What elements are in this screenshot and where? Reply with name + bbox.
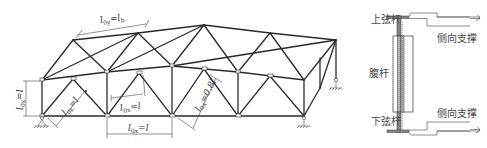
dim-bottom-chord: l0x=l bbox=[107, 118, 172, 138]
dim-end-post: l0x=l bbox=[15, 81, 40, 116]
svg-text:l0x=0.8l: l0x=0.8l bbox=[193, 77, 219, 113]
dim-web-member: l0x=l bbox=[111, 75, 145, 114]
label-web-member: 腹杆 bbox=[369, 67, 389, 79]
support-right-front bbox=[297, 116, 310, 128]
svg-text:l0x=l: l0x=l bbox=[60, 95, 82, 118]
bottom-chord-flange bbox=[387, 130, 409, 133]
section-detail-diagram: 上弦杆 腹杆 下弦杆 侧向支撑 侧向支撑 bbox=[369, 13, 480, 135]
label-lateral-bracing-bottom: 侧向支撑 bbox=[437, 107, 477, 119]
dim-inner-diagonal: l0x=0.8l bbox=[178, 75, 222, 130]
front-top-chord bbox=[42, 40, 336, 80]
structural-diagram: l0y=lb l0x=l l0x=l l0x= bbox=[0, 0, 487, 148]
svg-text:l0x=l: l0x=l bbox=[120, 101, 142, 114]
svg-text:l0y=lb: l0y=lb bbox=[99, 12, 125, 27]
support-right-back bbox=[329, 78, 342, 90]
dim-end-diagonal: l0x=l bbox=[48, 90, 87, 128]
svg-text:l0x=l: l0x=l bbox=[15, 89, 26, 110]
label-top-chord: 上弦杆 bbox=[371, 13, 401, 25]
label-lateral-bracing-top: 侧向支撑 bbox=[437, 32, 477, 44]
label-bottom-chord: 下弦杆 bbox=[371, 115, 401, 127]
svg-text:l0x=l: l0x=l bbox=[128, 123, 149, 134]
dim-l0y: l0y=lb bbox=[76, 12, 149, 38]
back-truss bbox=[73, 25, 336, 40]
support-left bbox=[34, 116, 49, 128]
space-truss-diagram: l0y=lb l0x=l l0x=l l0x= bbox=[15, 12, 342, 138]
